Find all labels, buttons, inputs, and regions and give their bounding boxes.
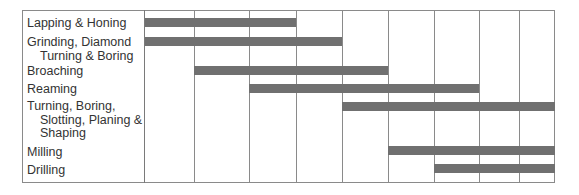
grid-line	[519, 10, 520, 183]
bar-milling	[388, 146, 555, 155]
row-label-lapping: Lapping & Honing	[27, 16, 126, 30]
label-line: Milling	[27, 145, 62, 159]
grid-line	[249, 10, 250, 183]
label-line: Broaching	[27, 64, 83, 78]
label-line: Turning, Boring,	[27, 99, 115, 113]
label-line: Turning & Boring	[27, 49, 133, 63]
row-label-broaching: Broaching	[27, 64, 83, 78]
bar-grinding	[145, 37, 342, 46]
grid-line	[194, 10, 195, 183]
label-line: Lapping & Honing	[27, 16, 126, 30]
label-line: Reaming	[27, 82, 77, 96]
row-label-grinding: Grinding, Diamond Turning & Boring	[27, 35, 133, 63]
bar-reaming	[249, 84, 479, 93]
bar-drilling	[434, 164, 555, 173]
bar-broaching	[194, 66, 388, 75]
row-label-drilling: Drilling	[27, 163, 65, 177]
bar-turning	[342, 102, 555, 111]
row-label-reaming: Reaming	[27, 82, 77, 96]
row-label-turning: Turning, Boring, Slotting, Planing & Sha…	[27, 100, 142, 141]
grid-line	[434, 10, 435, 183]
label-line: Grinding, Diamond	[27, 35, 131, 49]
bar-lapping	[145, 18, 296, 27]
label-line: Shaping	[27, 127, 142, 141]
label-line: Slotting, Planing &	[27, 114, 142, 128]
row-label-milling: Milling	[27, 145, 62, 159]
grid-line	[388, 10, 389, 183]
grid-line	[479, 10, 480, 183]
grid-line	[342, 10, 343, 183]
label-line: Drilling	[27, 163, 65, 177]
grid-line	[296, 10, 297, 183]
